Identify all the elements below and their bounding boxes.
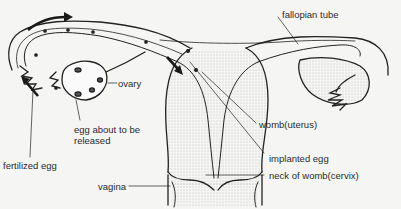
label-egg-release-line2: released bbox=[74, 135, 110, 146]
label-fertilized-egg: fertilized egg bbox=[3, 160, 57, 171]
label-implanted-egg: implanted egg bbox=[269, 153, 329, 164]
label-cervix: neck of womb(cervix) bbox=[269, 170, 359, 181]
label-egg-release-line1: egg about to be bbox=[74, 124, 140, 135]
label-womb: womb(uterus) bbox=[259, 119, 317, 130]
reproductive-system-diagram: fallopian tube ovary egg about to be rel… bbox=[0, 0, 401, 209]
label-fallopian-tube: fallopian tube bbox=[282, 9, 339, 20]
label-ovary: ovary bbox=[118, 78, 141, 89]
label-vagina: vagina bbox=[98, 181, 126, 192]
